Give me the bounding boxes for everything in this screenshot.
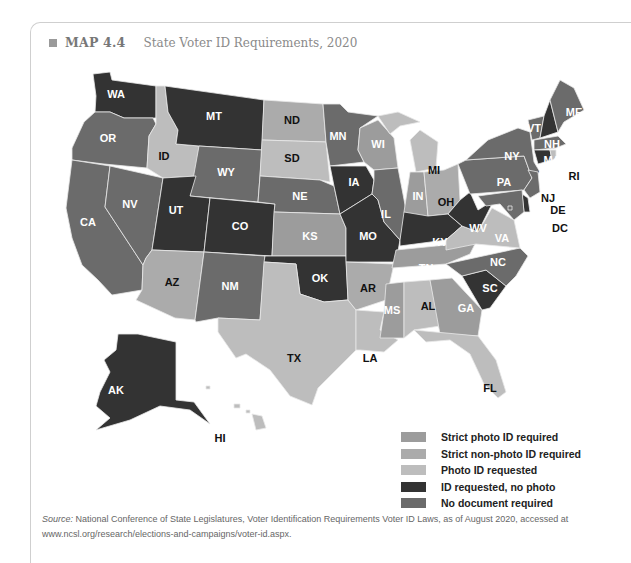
state-label-wa: WA: [107, 88, 125, 100]
state-label-dc: DC: [552, 222, 568, 234]
state-label-nc: NC: [490, 256, 506, 268]
state-label-ky: KY: [432, 236, 448, 248]
state-label-pa: PA: [497, 176, 512, 188]
legend-item-strict-photo: Strict photo ID required: [401, 429, 581, 445]
source-note: Source: National Conference of State Leg…: [42, 512, 602, 542]
legend-swatch: [401, 482, 426, 492]
state-label-ne: NE: [292, 190, 307, 202]
state-label-mo: MO: [359, 230, 377, 242]
legend-item-photo-requested: Photo ID requested: [401, 462, 581, 478]
legend-item-strict-nonphoto: Strict non-photo ID required: [401, 446, 581, 462]
state-label-or: OR: [100, 132, 117, 144]
legend-item-id-no-photo: ID requested, no photo: [401, 479, 581, 495]
legend-label: Strict photo ID required: [441, 431, 558, 443]
state-label-ks: KS: [302, 230, 317, 242]
state-label-wv: WV: [469, 222, 487, 234]
state-label-fl: FL: [483, 382, 497, 394]
legend-item-no-document: No document required: [401, 495, 581, 511]
state-label-tn: TN: [419, 262, 434, 274]
state-label-il: IL: [381, 208, 391, 220]
state-label-ct: CT: [539, 166, 554, 178]
state-pa: [458, 156, 532, 194]
state-label-hi: HI: [215, 432, 226, 444]
state-label-nv: NV: [122, 198, 138, 210]
legend-swatch: [401, 498, 426, 508]
state-label-md: MD: [529, 200, 546, 212]
state-label-az: AZ: [165, 276, 180, 288]
state-label-nh: NH: [544, 138, 560, 150]
state-label-wy: WY: [217, 166, 235, 178]
state-label-la: LA: [363, 352, 378, 364]
legend-label: Strict non-photo ID required: [441, 448, 581, 460]
state-label-sc: SC: [482, 282, 497, 294]
state-label-ak: AK: [108, 384, 124, 396]
state-ak: [96, 334, 210, 430]
state-label-id: ID: [159, 150, 170, 162]
state-label-va: VA: [495, 232, 510, 244]
state-label-me: ME: [566, 106, 583, 118]
state-label-ca: CA: [80, 216, 96, 228]
state-label-ar: AR: [360, 282, 376, 294]
state-label-ri: RI: [569, 170, 580, 182]
legend: Strict photo ID required Strict non-phot…: [401, 429, 581, 512]
state-label-ma: MA: [543, 154, 560, 166]
state-label-nm: NM: [221, 280, 238, 292]
state-label-mn: MN: [329, 130, 346, 142]
legend-swatch: [401, 449, 426, 459]
state-label-ny: NY: [504, 150, 520, 162]
state-label-oh: OH: [438, 196, 455, 208]
state-label-co: CO: [232, 220, 249, 232]
legend-swatch: [401, 465, 426, 475]
legend-label: ID requested, no photo: [441, 481, 555, 493]
legend-label: No document required: [441, 497, 553, 509]
source-prefix: Source:: [42, 514, 73, 524]
state-label-ms: MS: [384, 304, 401, 316]
state-label-ok: OK: [312, 272, 329, 284]
state-label-mt: MT: [206, 110, 222, 122]
state-label-sd: SD: [284, 152, 299, 164]
state-label-mi: MI: [428, 164, 440, 176]
state-label-ga: GA: [458, 302, 475, 314]
source-text: National Conference of State Legislature…: [42, 514, 568, 539]
state-label-nd: ND: [284, 114, 300, 126]
state-label-ia: IA: [349, 176, 360, 188]
state-hi: [206, 386, 266, 430]
state-label-vt: VT: [527, 122, 541, 134]
legend-label: Photo ID requested: [441, 464, 537, 476]
state-label-ut: UT: [169, 204, 184, 216]
state-label-in: IN: [413, 190, 424, 202]
state-dc: [508, 206, 512, 210]
legend-swatch: [401, 432, 426, 442]
state-label-tx: TX: [287, 352, 302, 364]
state-label-de: DE: [550, 204, 565, 216]
state-label-wi: WI: [371, 138, 384, 150]
state-label-al: AL: [421, 300, 436, 312]
